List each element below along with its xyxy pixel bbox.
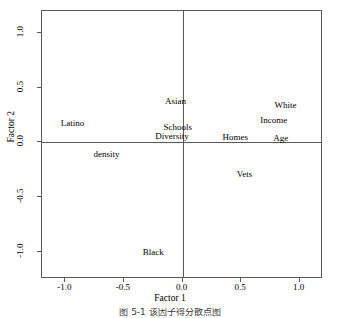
x-tick-label: 1.0 xyxy=(293,283,304,292)
point-label-homes: Homes xyxy=(222,132,248,141)
point-label-diversity: Diversity xyxy=(155,131,189,140)
point-label-asian: Asian xyxy=(165,96,186,105)
point-label-density: density xyxy=(93,150,119,159)
y-tick-mark xyxy=(37,196,41,197)
y-axis-label: Factor 2 xyxy=(7,91,17,163)
y-tick-mark xyxy=(37,141,41,142)
x-tick-label: 0.0 xyxy=(176,283,187,292)
y-tick-label: 1.0 xyxy=(16,19,25,43)
y-tick-mark xyxy=(37,251,41,252)
y-tick-label: 0.5 xyxy=(16,74,25,98)
point-label-vets: Vets xyxy=(237,169,253,178)
factor-loading-scatter-figure: LatinoAsianSchoolsDiversitydensityHomesW… xyxy=(0,0,340,318)
x-tick-label: -0.5 xyxy=(116,283,130,292)
point-label-income: Income xyxy=(260,116,287,125)
figure-caption: 图 5-1 该因子得分散点图 xyxy=(0,308,340,318)
point-label-latino: Latino xyxy=(61,118,85,127)
plot-frame: LatinoAsianSchoolsDiversitydensityHomesW… xyxy=(41,10,322,278)
zero-line-horizontal xyxy=(42,142,321,143)
zero-line-vertical xyxy=(183,11,184,277)
x-tick-label: 0.5 xyxy=(234,283,245,292)
point-label-white: White xyxy=(275,101,297,110)
y-tick-label: 0.0 xyxy=(16,129,25,153)
y-tick-mark xyxy=(37,87,41,88)
y-tick-label: -1.0 xyxy=(16,238,25,262)
x-tick-label: -1.0 xyxy=(57,283,71,292)
x-axis-label: Factor 1 xyxy=(0,294,340,304)
point-label-age: Age xyxy=(273,133,288,142)
y-tick-mark xyxy=(37,32,41,33)
y-tick-label: -0.5 xyxy=(16,183,25,207)
point-label-black: Black xyxy=(143,247,164,256)
